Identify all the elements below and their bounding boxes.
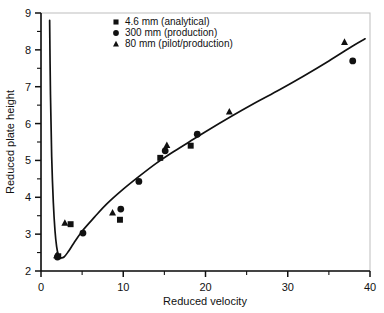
y-tick-label: 7 [25, 81, 31, 93]
data-point-square [117, 217, 123, 223]
legend-marker-square [113, 19, 118, 24]
data-point-circle [162, 147, 169, 154]
y-tick-label: 8 [25, 44, 31, 56]
legend-label: 4.6 mm (analytical) [125, 16, 209, 27]
chart-figure: 010203040 23456789 Reduced velocity Redu… [0, 0, 384, 313]
data-point-circle [80, 230, 87, 237]
data-point-circle [194, 131, 201, 138]
y-tick-label: 2 [25, 265, 31, 277]
x-tick-label: 40 [364, 281, 376, 293]
y-tick-label: 4 [25, 191, 31, 203]
data-point-circle [117, 206, 124, 213]
y-tick-label: 5 [25, 154, 31, 166]
x-tick-label: 30 [282, 281, 294, 293]
y-tick-label: 3 [25, 228, 31, 240]
data-point-square [157, 155, 163, 161]
x-axis-title: Reduced velocity [163, 295, 247, 307]
legend-label: 80 mm (pilot/production) [125, 38, 233, 49]
scatter-plot: 010203040 23456789 Reduced velocity Redu… [0, 0, 384, 313]
data-point-square [68, 221, 74, 227]
data-point-circle [135, 178, 142, 185]
y-tick-label: 6 [25, 118, 31, 130]
data-point-square [188, 143, 194, 149]
legend-marker-circle [113, 30, 119, 36]
legend-label: 300 mm (production) [125, 27, 217, 38]
data-point-circle [349, 58, 356, 65]
y-axis-title: Reduced plate height [4, 90, 16, 194]
x-tick-label: 20 [199, 281, 211, 293]
y-tick-label: 9 [25, 7, 31, 19]
x-tick-label: 10 [117, 281, 129, 293]
x-tick-label: 0 [38, 281, 44, 293]
